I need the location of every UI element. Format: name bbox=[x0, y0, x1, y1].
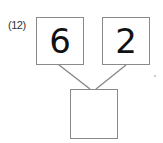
answer-box[interactable] bbox=[70, 89, 118, 139]
top-right-number: 2 bbox=[115, 24, 137, 58]
left-connector-line bbox=[59, 65, 90, 89]
right-connector-line bbox=[96, 65, 126, 89]
top-left-number: 6 bbox=[49, 24, 71, 58]
stray-mark bbox=[154, 75, 156, 77]
top-right-number-box: 2 bbox=[102, 17, 150, 65]
top-left-number-box: 6 bbox=[36, 17, 84, 65]
